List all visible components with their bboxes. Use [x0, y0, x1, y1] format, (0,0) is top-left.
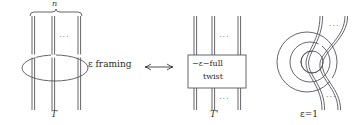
right-strand-ellipsis-top: ···	[329, 22, 340, 30]
knot-framing-figure: n ··· T ε framing ··· −ε−full twist ··· …	[0, 0, 362, 125]
left-brace	[30, 9, 82, 16]
right-panel-spiral	[277, 16, 348, 110]
right-panel-label: ε=1	[300, 110, 318, 119]
strand-count-label: n	[52, 0, 57, 8]
framing-relation-label: ε framing	[88, 60, 132, 69]
right-strand-ellipsis-bottom: ···	[326, 93, 337, 101]
left-strand-ellipsis: ···	[59, 33, 70, 41]
twist-box-line2: twist	[203, 73, 223, 81]
spiral-turn-outer	[277, 32, 337, 92]
left-panel-strands	[22, 9, 88, 110]
middle-strand-ellipsis-bottom: ···	[219, 95, 230, 103]
middle-panel-label: T'	[210, 110, 218, 119]
equivalence-arrow	[145, 64, 173, 70]
left-panel-label: T	[51, 110, 57, 119]
figure-lineart	[0, 0, 362, 125]
twist-box-line1: −ε−full	[192, 60, 223, 68]
middle-strand-ellipsis-top: ···	[219, 33, 230, 41]
